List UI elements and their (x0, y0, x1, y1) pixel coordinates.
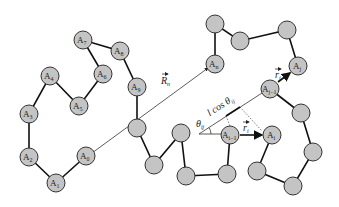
polymer-chain-diagram: A0 A1 A2 A3 A4 A5 A6 A7 A8 A9 An Aj Aj−1… (0, 0, 339, 207)
node (145, 156, 163, 174)
node (292, 104, 310, 122)
projection-dotted-2 (226, 116, 230, 126)
label-rn: Rn (160, 75, 170, 87)
node (278, 21, 296, 39)
node (248, 162, 266, 180)
label-ri: ri (243, 122, 249, 134)
projection-segment (226, 107, 240, 116)
node (218, 165, 236, 183)
label-rj: rj (275, 69, 281, 81)
node (284, 177, 302, 195)
node (128, 119, 146, 137)
node (304, 143, 322, 161)
nodes (20, 15, 322, 195)
label-projection: l cos θij (205, 93, 236, 119)
node (172, 124, 190, 142)
angle-arc (209, 128, 211, 135)
node (177, 167, 195, 185)
node (231, 32, 249, 50)
label-theta: θij (196, 118, 205, 130)
node (206, 15, 224, 33)
